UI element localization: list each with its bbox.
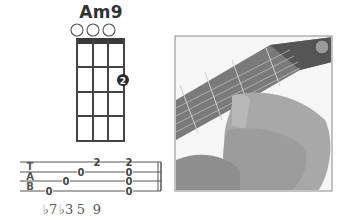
svg-text:0: 0	[63, 176, 70, 187]
finger-dot: 2	[117, 74, 129, 86]
tab-staff	[20, 162, 161, 191]
svg-text:0: 0	[78, 167, 85, 178]
svg-text:0: 0	[126, 186, 133, 197]
chord-photo	[175, 36, 332, 191]
interval-label: 9	[87, 202, 107, 217]
open-string-icon	[71, 24, 83, 36]
svg-text:B: B	[26, 181, 34, 192]
nut	[76, 38, 125, 44]
svg-text:0: 0	[46, 186, 53, 197]
open-string-icon	[103, 24, 115, 36]
svg-text:2: 2	[120, 76, 126, 86]
open-string-markers	[71, 24, 115, 36]
tab-clef: T A B	[26, 161, 34, 192]
fretboard-strings	[77, 38, 124, 142]
chord-chart: 2 T A B 0 0 0 2 2 0 0 0	[0, 0, 342, 224]
open-string-icon	[87, 24, 99, 36]
svg-text:2: 2	[94, 157, 101, 168]
